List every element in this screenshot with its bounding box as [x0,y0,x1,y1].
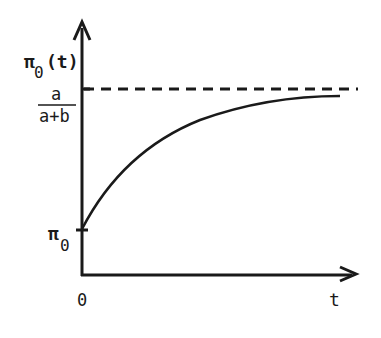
initial-value-symbol: π [48,223,59,244]
diagram-canvas: π 0 (t) a a+b π 0 0 t [0,0,381,338]
y-axis-label-suffix: (t) [46,51,79,72]
origin-label: 0 [77,290,87,310]
y-axis-label-subscript: 0 [34,63,44,82]
initial-value-subscript: 0 [60,236,70,255]
x-axis-label: t [329,289,340,310]
curve-pi0-t [82,96,340,229]
asymptote-numerator: a [51,84,61,104]
asymptote-denominator: a+b [39,106,70,126]
